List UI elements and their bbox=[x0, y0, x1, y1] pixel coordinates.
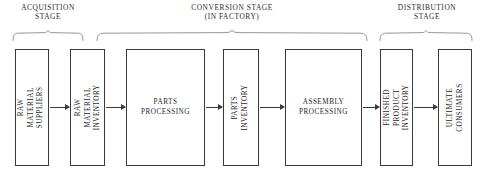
arrow-parts-inventory-to-assembly-processing bbox=[260, 107, 284, 108]
node-assembly-processing[interactable]: ASSEMBLY PROCESSING bbox=[285, 49, 362, 166]
arrow-finished-product-inventory-to-ultimate-consumers bbox=[414, 107, 437, 108]
brace-acquisition bbox=[12, 30, 84, 41]
arrow-parts-processing-to-parts-inventory bbox=[206, 107, 222, 108]
stage-label-acquisition: ACQUISITION STAGE bbox=[4, 3, 92, 22]
node-label-ultimate-consumers: ULTIMATE CONSUMERS bbox=[445, 83, 464, 131]
node-label-finished-product-inventory: FINISHED PRODUCT INVENTORY bbox=[382, 85, 411, 131]
node-ultimate-consumers[interactable]: ULTIMATE CONSUMERS bbox=[438, 49, 472, 166]
node-label-assembly-processing: ASSEMBLY PROCESSING bbox=[287, 98, 361, 117]
node-raw-material-inventory[interactable]: RAW MATERIAL INVENTORY bbox=[70, 49, 105, 166]
node-label-raw-material-inventory: RAW MATERIAL INVENTORY bbox=[73, 85, 102, 131]
arrow-assembly-processing-to-finished-product-inventory bbox=[363, 107, 379, 108]
arrow-raw-material-inventory-to-parts-processing bbox=[106, 107, 125, 108]
node-label-parts-processing: PARTS PROCESSING bbox=[128, 98, 204, 117]
brace-distribution bbox=[379, 30, 473, 41]
stage-label-conversion: CONVERSION STAGE (IN FACTORY) bbox=[142, 3, 322, 22]
node-finished-product-inventory[interactable]: FINISHED PRODUCT INVENTORY bbox=[380, 49, 413, 166]
arrow-suppliers-to-raw-material-inventory bbox=[50, 107, 69, 108]
node-parts-inventory[interactable]: PARTS INVENTORY bbox=[223, 49, 259, 166]
stage-label-distribution: DISTRIBUTION STAGE bbox=[381, 3, 473, 22]
node-label-parts-inventory: PARTS INVENTORY bbox=[231, 85, 250, 131]
node-parts-processing[interactable]: PARTS PROCESSING bbox=[126, 49, 205, 166]
node-label-raw-material-suppliers: RAW MATERIAL SUPPLIERS bbox=[18, 87, 47, 129]
brace-conversion bbox=[96, 30, 368, 41]
node-raw-material-suppliers[interactable]: RAW MATERIAL SUPPLIERS bbox=[15, 49, 49, 166]
supply-chain-flow-diagram: ACQUISITION STAGE CONVERSION STAGE (IN F… bbox=[0, 0, 489, 177]
